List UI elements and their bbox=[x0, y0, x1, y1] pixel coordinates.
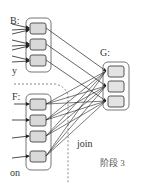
stage-label: 阶段 3 bbox=[100, 159, 125, 168]
b-to-g-edges bbox=[46, 28, 106, 101]
group-g-label: G: bbox=[100, 48, 110, 58]
left-label-bottom: on bbox=[10, 168, 20, 178]
group-b-label: B: bbox=[10, 16, 19, 26]
group-f bbox=[26, 94, 51, 170]
join-label: join bbox=[77, 139, 93, 149]
group-g bbox=[103, 62, 129, 110]
left-label-top: y bbox=[12, 66, 17, 76]
stage-diagram bbox=[0, 0, 143, 183]
group-f-label: F: bbox=[12, 92, 20, 102]
